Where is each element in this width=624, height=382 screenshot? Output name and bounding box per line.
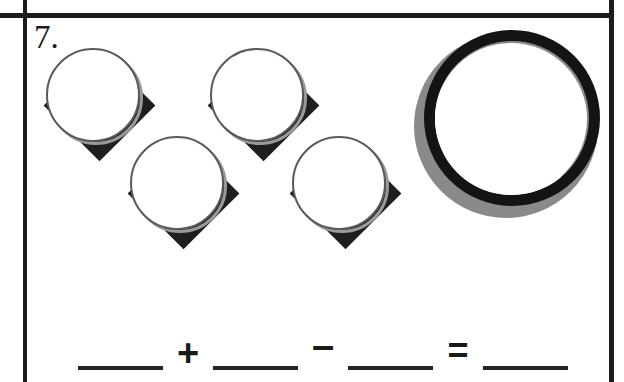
- ring-center-fill: [435, 43, 587, 195]
- answer-blank-4[interactable]: [483, 334, 568, 370]
- counter-item-4: [286, 130, 404, 256]
- large-ring-item: [414, 30, 604, 222]
- circle-icon: [130, 136, 224, 230]
- circle-icon: [292, 136, 386, 230]
- cell-border-right: [609, 0, 614, 382]
- cell-border-top: [0, 13, 613, 18]
- equation-row: + – =: [78, 322, 578, 370]
- counter-item-3: [124, 130, 242, 256]
- operator-equals: =: [433, 336, 483, 370]
- answer-blank-3[interactable]: [348, 334, 433, 370]
- operator-minus: –: [298, 330, 348, 370]
- circle-icon: [210, 48, 304, 142]
- worksheet-page: 7. + – =: [0, 0, 624, 382]
- circle-icon: [46, 48, 140, 142]
- cell-border-left: [23, 0, 27, 382]
- operator-plus: +: [163, 338, 213, 370]
- answer-blank-2[interactable]: [213, 334, 298, 370]
- answer-blank-1[interactable]: [78, 334, 163, 370]
